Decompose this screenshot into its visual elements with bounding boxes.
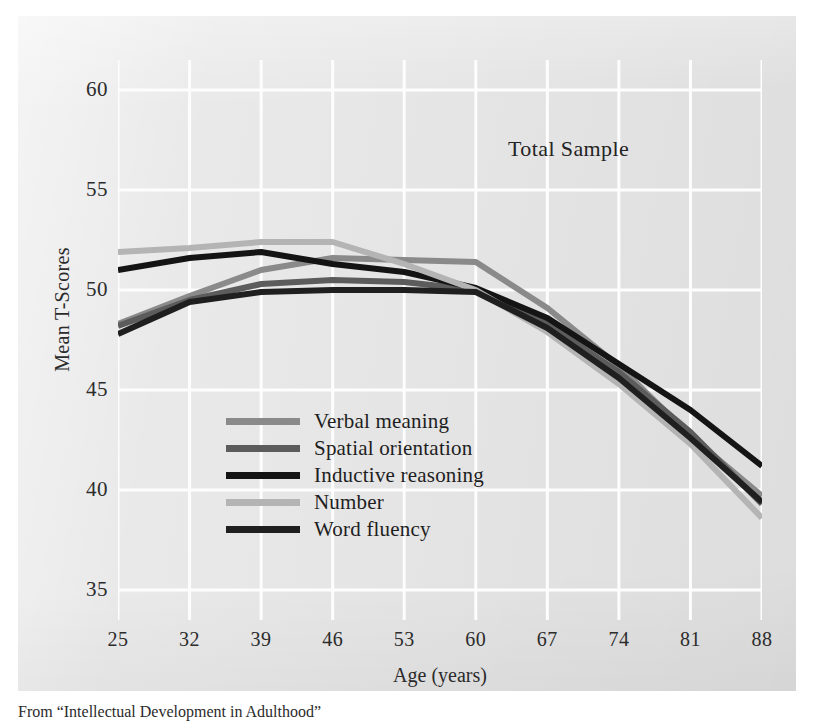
x-axis-tick-label: 81 [662,628,718,651]
figure-plate: 605550454035 Mean T-Scores 2532394653606… [18,16,796,691]
legend-item-label: Verbal meaning [314,409,449,434]
legend-item-label: Inductive reasoning [314,463,484,488]
x-axis-tick-label: 88 [734,628,790,651]
legend-item: Word fluency [226,516,484,543]
x-axis-tick-label: 74 [591,628,647,651]
legend-item: Number [226,489,484,516]
legend-color-swatch [226,472,300,479]
y-axis-tick-label: 40 [62,477,108,502]
x-axis-tick-label: 46 [305,628,361,651]
x-axis-tick-label: 53 [376,628,432,651]
x-axis-tick-label: 32 [162,628,218,651]
legend-color-swatch [226,499,300,506]
legend-item: Inductive reasoning [226,462,484,489]
y-axis-tick-label: 35 [62,577,108,602]
x-axis-tick-label: 39 [233,628,289,651]
legend-item-label: Word fluency [314,517,431,542]
legend-item: Verbal meaning [226,408,484,435]
x-axis-title: Age (years) [118,664,762,687]
y-axis-title: Mean T-Scores [51,210,74,410]
total-sample-annotation: Total Sample [508,136,629,162]
legend-item-label: Number [314,490,384,515]
y-axis-tick-label: 60 [62,77,108,102]
legend-color-swatch [226,418,300,425]
x-axis-tick-label: 25 [90,628,146,651]
legend-color-swatch [226,445,300,452]
chart-legend: Verbal meaningSpatial orientationInducti… [226,408,484,543]
legend-item-label: Spatial orientation [314,436,472,461]
figure-caption: From “Intellectual Development in Adulth… [18,702,788,722]
x-axis-tick-label: 67 [519,628,575,651]
y-axis-tick-label: 55 [62,177,108,202]
legend-color-swatch [226,526,300,533]
x-axis-tick-labels: 25323946536067748188 [118,628,762,660]
x-axis-tick-label: 60 [448,628,504,651]
legend-item: Spatial orientation [226,435,484,462]
